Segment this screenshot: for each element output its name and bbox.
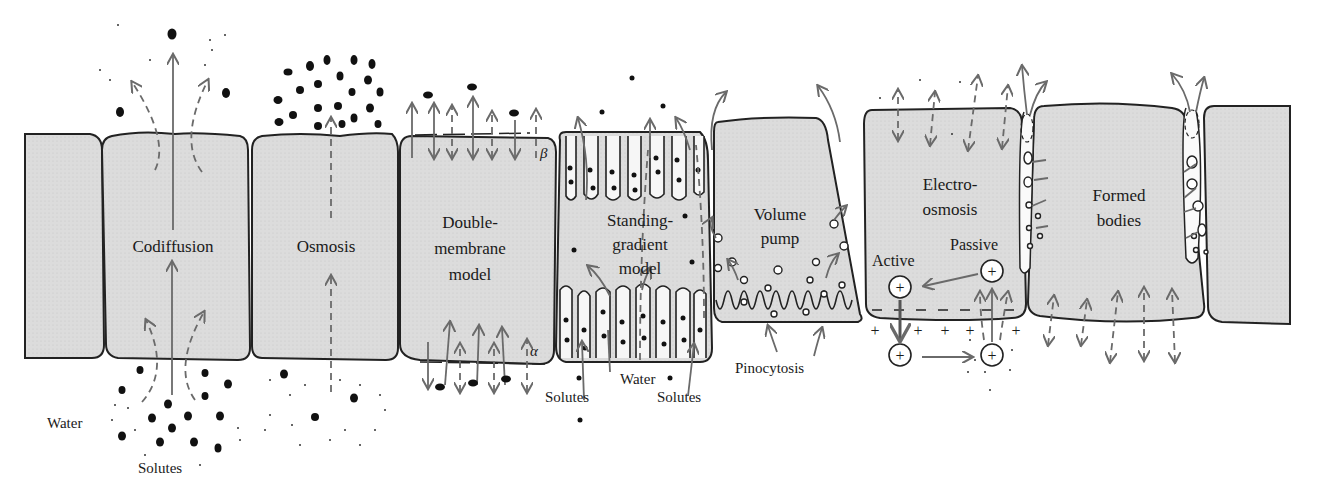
- double-membrane-label-line2: membrane: [434, 239, 506, 258]
- pinocytosis-label: Pinocytosis: [735, 360, 804, 376]
- active-label: Active: [872, 252, 915, 269]
- plus-charge: +: [1011, 322, 1020, 339]
- passive-label: Passive: [950, 236, 998, 253]
- osmosis-label: Osmosis: [297, 237, 356, 256]
- formed-bodies-label-line2: bodies: [1097, 211, 1141, 230]
- double-membrane-label-line1: Double-: [442, 213, 498, 232]
- standing-gradient-label-line1: Standing-: [607, 211, 673, 230]
- beta-marker: β: [539, 145, 548, 161]
- cell-right-edge: [1204, 106, 1290, 324]
- double-membrane-label-line3: model: [449, 265, 492, 284]
- sg-water-label: Water: [620, 371, 655, 387]
- standing-gradient-label-line3: model: [619, 259, 662, 278]
- standing-gradient-label-line2: gradient: [612, 235, 668, 254]
- plus-charge: +: [940, 322, 949, 339]
- solutes-label: Solutes: [138, 460, 182, 476]
- transport-diagram: Codiffusion Water Solutes Osmosis: [0, 0, 1321, 504]
- formed-bodies-label-line1: Formed: [1093, 186, 1146, 205]
- volume-pump-label-line1: Volume: [754, 205, 807, 224]
- plus-icon: +: [987, 347, 996, 364]
- plus-icon: +: [895, 279, 904, 296]
- plus-icon: +: [987, 263, 996, 280]
- electro-osmosis-label-line1: Electro-: [923, 175, 978, 194]
- codiffusion-label: Codiffusion: [133, 237, 214, 256]
- volume-pump-label-line2: pump: [761, 229, 800, 248]
- alpha-marker: α: [530, 343, 539, 359]
- water-label: Water: [47, 415, 82, 431]
- sg-solutes-right-label: Solutes: [657, 389, 701, 405]
- electro-osmosis-label-line2: osmosis: [923, 200, 978, 219]
- plus-charge: +: [913, 322, 922, 339]
- plus-charge: +: [965, 322, 974, 339]
- plus-charge: +: [870, 322, 879, 339]
- cell-left-edge: [25, 134, 104, 358]
- plus-icon: +: [895, 347, 904, 364]
- sg-solutes-left-label: Solutes: [545, 389, 589, 405]
